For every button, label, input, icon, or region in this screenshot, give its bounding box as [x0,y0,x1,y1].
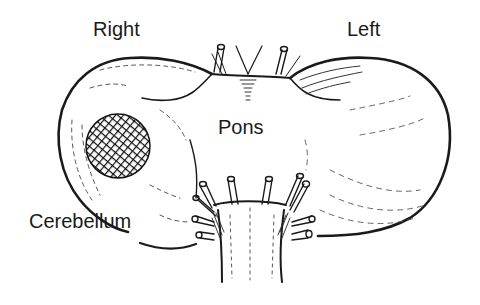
label-cerebellum: Cerebellum [29,211,131,231]
label-right: Right [93,19,140,39]
cerebellum-illustration [0,0,480,305]
left-hemisphere [290,58,450,236]
label-pons: Pons [218,117,264,137]
pons [212,45,300,101]
cerebellum-diagram: Right Left Pons Cerebellum [0,0,480,305]
lesion-hatched [86,114,150,178]
medulla [192,174,315,283]
label-left: Left [347,19,380,39]
